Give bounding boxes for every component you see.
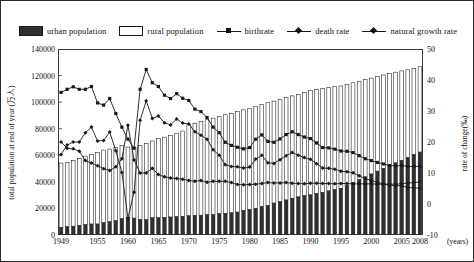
x-axis-tick-label: 1995 — [333, 237, 349, 246]
legend-natural-growth-rate[interactable]: natural growth rate — [362, 26, 457, 36]
x-axis-tick-label: 1970 — [181, 237, 197, 246]
x-axis-tick-label: 1955 — [90, 237, 106, 246]
x-axis-tick-label: 1980 — [242, 237, 258, 246]
y-axis-left-ticks: 020000400006000080000100000120000140000 — [9, 49, 55, 235]
urban-swatch-icon — [19, 26, 43, 36]
legend-birthrate[interactable]: birthrate — [217, 26, 275, 36]
legend-label: natural growth rate — [390, 26, 457, 36]
line-series-death-rate — [59, 123, 422, 187]
x-axis-tick-label: 2005 — [394, 237, 410, 246]
x-axis-ticks: 1949195519601965197019751980198519901995… — [58, 237, 468, 251]
x-axis-tick-label: 1965 — [150, 237, 166, 246]
x-axis-tick-label: 1949 — [53, 237, 69, 246]
y-axis-left-tick-label: 60000 — [35, 151, 55, 160]
legend-label: urban population — [47, 26, 106, 36]
x-axis-tick-label: 1985 — [272, 237, 288, 246]
legend-label: rural population — [147, 26, 203, 36]
line-marker-icon — [362, 27, 386, 35]
x-axis-tick-label: 2008 — [412, 237, 428, 246]
chart-legend: urban populationrural populationbirthrat… — [1, 23, 474, 39]
plot-area — [58, 49, 423, 235]
y-axis-right-tick-label: 0 — [427, 200, 431, 209]
y-axis-right-ticks: -1001020304050 — [427, 49, 457, 235]
y-axis-left-tick-label: 120000 — [31, 71, 55, 80]
legend-label: birthrate — [245, 26, 275, 36]
y-axis-left-tick-label: 100000 — [31, 98, 55, 107]
x-axis-unit-label: (years) — [447, 237, 468, 246]
x-axis-tick-label: 1975 — [211, 237, 227, 246]
legend-rural-population[interactable]: rural population — [119, 26, 203, 36]
legend-label: death rate — [315, 26, 349, 36]
bar-series-group — [59, 67, 422, 235]
line-marker-icon — [287, 27, 311, 35]
y-axis-right-tick-label: 30 — [427, 107, 435, 116]
x-axis-tick-label: 1960 — [120, 237, 136, 246]
y-axis-left-tick-label: 20000 — [35, 204, 55, 213]
rural-swatch-icon — [119, 26, 143, 36]
legend-urban-population[interactable]: urban population — [19, 26, 106, 36]
y-axis-right-title: rate of change(‰) — [458, 93, 472, 193]
y-axis-right-tick-label: 50 — [427, 45, 435, 54]
y-axis-right-tick-label: 40 — [427, 76, 435, 85]
y-axis-left-tick-label: 40000 — [35, 177, 55, 186]
y-axis-right-tick-label: 10 — [427, 169, 435, 178]
x-axis-tick-label: 1990 — [302, 237, 318, 246]
chart-figure: urban populationrural populationbirthrat… — [0, 0, 474, 262]
line-marker-icon — [217, 27, 241, 35]
chart-canvas — [58, 49, 423, 235]
y-axis-right-title-text: rate of change(‰) — [461, 115, 470, 171]
y-axis-left-tick-label: 140000 — [31, 45, 55, 54]
y-axis-left-tick-label: 80000 — [35, 124, 55, 133]
legend-death-rate[interactable]: death rate — [287, 26, 349, 36]
x-axis-tick-label: 2000 — [363, 237, 379, 246]
y-axis-right-tick-label: 20 — [427, 138, 435, 147]
